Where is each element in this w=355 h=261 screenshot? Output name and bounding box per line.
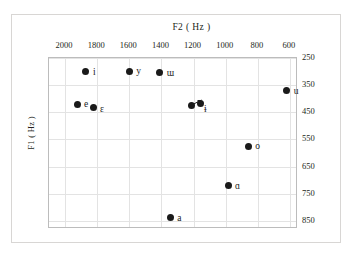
gridline-vertical [97,58,98,227]
data-point-label: ɑ [235,181,240,191]
data-point [167,214,174,221]
plot-area: iyɯueɛɨoɑa [48,57,297,228]
data-point-label: ɯ [167,68,174,78]
data-point [82,68,89,75]
gridline-vertical [65,58,66,227]
data-point [126,68,133,75]
x-axis-title: F2 ( Hz ) [0,22,355,32]
gridline-horizontal [49,221,296,222]
x-tick-label: 600 [269,40,309,50]
y-tick-label: 650 [302,160,315,172]
y-tick-label: 350 [302,78,315,90]
vowel-chart-figure: F2 ( Hz ) F1 ( Hz ) 20001800160014001200… [0,0,355,261]
gridline-vertical [226,58,227,227]
data-point [74,101,81,108]
gridline-horizontal [49,167,296,168]
gridline-vertical [290,58,291,227]
gridline-horizontal [49,58,296,59]
data-point-label: ɛ [100,104,104,114]
data-point-label: u [294,86,299,96]
y-axis-title: F1 ( Hz ) [26,98,36,168]
y-tick-label: 550 [302,132,315,144]
annotation-arrow-icon [185,94,207,111]
y-tick-label: 450 [302,105,315,117]
y-tick-label: 850 [302,214,315,226]
gridline-vertical [129,58,130,227]
x-axis-title-text: F2 ( Hz ) [172,22,210,32]
y-tick-label: 250 [302,51,315,63]
gridline-vertical [161,58,162,227]
gridline-horizontal [49,194,296,195]
data-point [245,143,252,150]
data-point [225,182,232,189]
gridline-horizontal [49,85,296,86]
gridline-vertical [194,58,195,227]
data-point-label: a [177,213,181,223]
y-tick-label: 750 [302,187,315,199]
gridline-horizontal [49,112,296,113]
data-point-label: y [136,66,141,76]
data-point-label: i [93,67,96,77]
data-point-label: o [255,141,260,151]
data-point-label: e [84,99,88,109]
